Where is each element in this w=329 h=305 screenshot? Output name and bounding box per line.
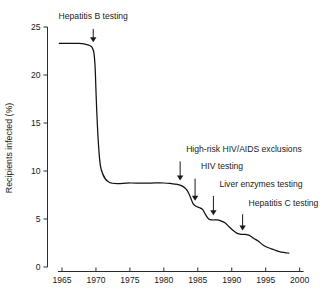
line-chart: 0510152025 19651970197519801985199019952…	[0, 0, 329, 305]
x-tick-label: 1980	[154, 275, 173, 285]
y-tick-label: 15	[31, 118, 41, 128]
x-tick-label: 2000	[290, 275, 309, 285]
x-tick-label: 1990	[222, 275, 241, 285]
annotation-arrow-head	[239, 226, 245, 231]
y-tick-label: 25	[31, 22, 41, 32]
annotation-label: HIV testing	[201, 161, 243, 171]
x-tick-label: 1970	[86, 275, 105, 285]
y-axis-title: Recipients infected (%)	[4, 103, 14, 194]
annotation-label: Hepatitis B testing	[59, 11, 128, 21]
x-tick-label: 1985	[188, 275, 207, 285]
annotation-arrow-head	[90, 37, 96, 42]
y-tick-label: 0	[36, 262, 41, 272]
x-axis: 19651970197519801985199019952000	[52, 268, 309, 285]
annotation-label: Hepatitis C testing	[249, 198, 319, 208]
chart-figure: 0510152025 19651970197519801985199019952…	[0, 0, 329, 305]
y-tick-label: 20	[31, 70, 41, 80]
annotation-label: High-risk HIV/AIDS exclusions	[186, 144, 302, 154]
annotation-label: Liver enzymes testing	[219, 179, 302, 189]
annotation-arrow-head	[177, 176, 183, 181]
annotation-arrow-head	[210, 210, 216, 215]
y-tick-label: 10	[31, 166, 41, 176]
y-tick-label: 5	[36, 214, 41, 224]
y-axis: 0510152025	[31, 22, 48, 272]
x-tick-label: 1995	[256, 275, 275, 285]
x-tick-label: 1965	[52, 275, 71, 285]
x-tick-label: 1975	[120, 275, 139, 285]
annotation-arrow-head	[192, 196, 198, 201]
